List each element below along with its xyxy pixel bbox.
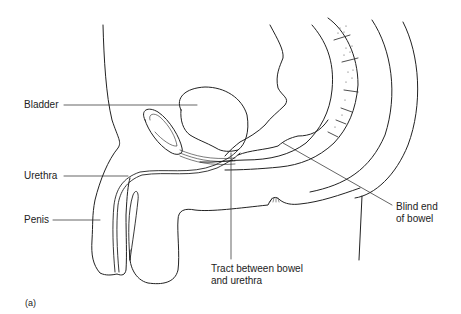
back-curve-inner bbox=[310, 20, 392, 192]
sacrum-inner bbox=[200, 25, 333, 162]
label-blind-end-line2: of bowel bbox=[396, 213, 433, 225]
abdomen-outline bbox=[92, 25, 130, 275]
anatomical-diagram: Bladder Urethra Penis Blind end of bowel… bbox=[0, 0, 461, 314]
label-penis: Penis bbox=[24, 214, 49, 226]
buttock-line bbox=[359, 196, 362, 260]
bowel-outline-lower bbox=[238, 120, 328, 155]
panel-label: (a) bbox=[25, 297, 36, 309]
seminal-vesicle bbox=[143, 109, 182, 154]
label-tract-line1: Tract between bowel bbox=[211, 263, 303, 275]
vertebra-texture bbox=[334, 25, 353, 127]
label-bladder: Bladder bbox=[24, 99, 58, 111]
label-tract-line2: and urethra bbox=[211, 275, 262, 287]
urethra-path bbox=[113, 150, 238, 272]
bowel-outline bbox=[225, 25, 287, 156]
sacrum-outer bbox=[225, 18, 358, 170]
seminal-vesicle-inner bbox=[150, 114, 177, 146]
back-curve-outer bbox=[355, 22, 418, 198]
label-blind-end-line1: Blind end bbox=[396, 201, 438, 213]
label-urethra: Urethra bbox=[24, 170, 57, 182]
bladder-outline bbox=[179, 87, 248, 151]
